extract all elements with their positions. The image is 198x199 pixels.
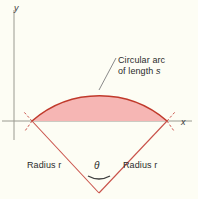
arc-annotation-line2-prefix: of length: [118, 66, 156, 76]
arc-extension-right: [167, 121, 174, 131]
y-axis-label: y: [14, 3, 19, 14]
radius-extension-left: [24, 112, 32, 121]
leader-line-arc-label: [99, 58, 116, 90]
radius-extension-right: [167, 112, 175, 121]
angle-arc-theta: [88, 176, 110, 179]
x-axis-label: x: [181, 117, 186, 128]
arc-annotation-label: Circular arcof length s: [118, 55, 165, 77]
radius-line-left: [32, 121, 99, 193]
arc-annotation-line1: Circular arc: [118, 55, 165, 65]
figure-container: Circular arcof length s Radius r Radius …: [0, 0, 198, 199]
radius-line-right: [99, 121, 167, 193]
arc-length-symbol: s: [156, 66, 161, 76]
angle-label-theta: θ: [94, 160, 100, 171]
arc-extension-left: [25, 121, 32, 131]
radius-label-left: Radius r: [27, 160, 61, 171]
radius-label-right: Radius r: [123, 160, 157, 171]
sector-shaded-region: [32, 96, 167, 121]
